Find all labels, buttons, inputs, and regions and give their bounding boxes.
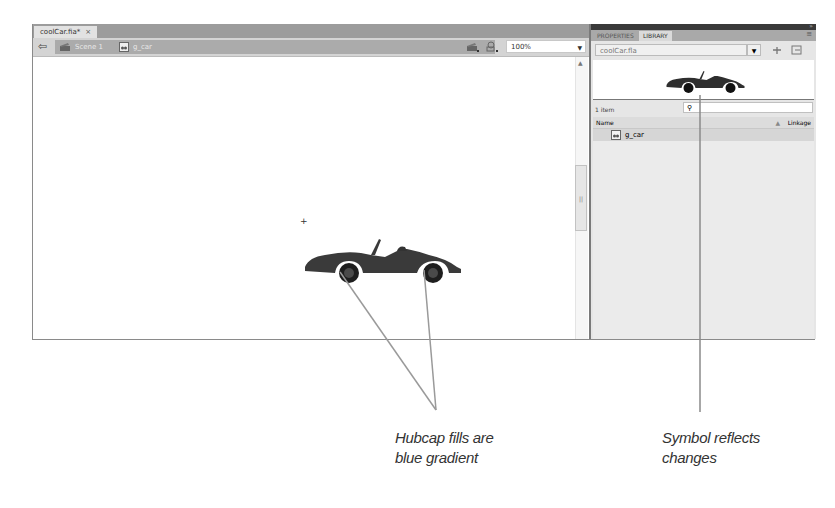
annotation-line: blue gradient [395,448,494,468]
annotation-line: Symbol reflects [662,428,760,448]
annotation-symbol: Symbol reflects changes [662,428,760,468]
annotation-line: Hubcap fills are [395,428,494,448]
annotation-line: changes [662,448,760,468]
annotation-hubcap: Hubcap fills are blue gradient [395,428,494,468]
